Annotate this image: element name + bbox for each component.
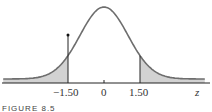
normal-curve (3, 7, 205, 79)
figure-caption: FIGURE 8.5 (2, 104, 56, 112)
tick-label-neg-1-50: −1.50 (53, 86, 78, 98)
axis-label-z: z (195, 86, 199, 98)
tick-label-zero: 0 (101, 86, 107, 98)
tick-label-1-50: 1.50 (129, 86, 148, 98)
cutoff-dot (67, 34, 70, 37)
